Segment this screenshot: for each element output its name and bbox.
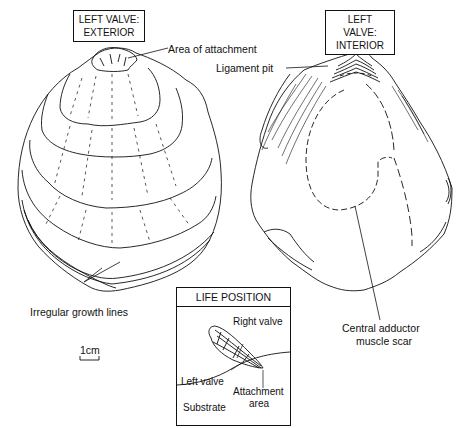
life-position-left-valve: Left valve [181, 376, 224, 387]
label-central-adductor-line2: muscle scar [356, 335, 412, 347]
interior-title-box: LEFT VALVE: INTERIOR [325, 10, 395, 55]
label-irregular-growth-lines: Irregular growth lines [30, 306, 128, 318]
left-valve-interior-drawing [251, 51, 452, 320]
left-valve-exterior-drawing [18, 48, 221, 292]
life-position-inset: LIFE POSITION Right valve Left valve Att… [176, 287, 291, 426]
exterior-title-line2: EXTERIOR [78, 26, 140, 39]
life-position-right-valve: Right valve [233, 316, 282, 327]
interior-title-line1: LEFT VALVE: [330, 13, 390, 39]
life-position-attachment-line1: Attachment [233, 386, 284, 397]
label-ligament-pit: Ligament pit [216, 62, 273, 74]
label-central-adductor-line1: Central adductor [342, 322, 420, 334]
label-area-of-attachment: Area of attachment [168, 43, 257, 55]
exterior-title-box: LEFT VALVE: EXTERIOR [73, 10, 145, 42]
life-position-substrate: Substrate [183, 402, 226, 413]
exterior-title-line1: LEFT VALVE: [78, 13, 140, 26]
life-position-attachment-line2: area [249, 398, 269, 409]
label-scale-bar: 1cm [80, 344, 100, 356]
scale-bar-line [80, 356, 99, 360]
interior-title-line2: INTERIOR [330, 39, 390, 52]
